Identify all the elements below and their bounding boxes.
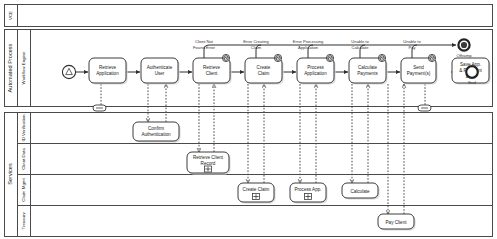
task-label-line2: Claim bbox=[258, 71, 270, 76]
boundary-error-label-line1: Unable to bbox=[403, 39, 421, 44]
pool-label-services: Services bbox=[7, 163, 13, 185]
service-task-label-line1: Process App. bbox=[294, 187, 321, 192]
service-task-label-line1: Confirm bbox=[148, 126, 164, 131]
task-label-line2: Client bbox=[206, 71, 218, 76]
boundary-error-label-line2: Pay bbox=[408, 45, 416, 50]
pool-label-vce: VCE bbox=[8, 11, 13, 20]
task-label-line2: Payment(s) bbox=[407, 71, 431, 76]
task-label-line2: Application bbox=[304, 71, 327, 76]
service-task-label-line2: Record bbox=[201, 161, 216, 166]
task-label-line1: Retrieve bbox=[99, 65, 117, 70]
service-task-process-app[interactable]: Process App. bbox=[290, 183, 328, 204]
event-label-offramp: Offramp bbox=[456, 53, 472, 58]
task-retrieve-application[interactable]: Retrieve Application bbox=[89, 58, 128, 85]
task-label-line1: Create bbox=[257, 65, 271, 70]
boundary-error-label-line1: Unable to bbox=[351, 39, 369, 44]
boundary-error-label-line1: Client Not bbox=[195, 39, 214, 44]
task-label-line1: Process bbox=[307, 65, 324, 70]
service-task-create-claim[interactable]: Create Claim bbox=[238, 183, 276, 204]
service-task-calculate[interactable]: Calculate bbox=[342, 183, 380, 200]
pool-vce: VCE bbox=[5, 5, 493, 27]
lane-label-claim-mgmt: Claim Mgmt bbox=[21, 178, 26, 202]
task-label-line2: Payments bbox=[357, 71, 378, 76]
boundary-error-label-line2: Found Error bbox=[193, 45, 215, 50]
lane-label-id-verification: ID Verification bbox=[21, 114, 26, 142]
collapsed-pool-markers bbox=[93, 105, 431, 111]
task-label-line1: Retrieve bbox=[203, 65, 221, 70]
task-label-line1: Send bbox=[413, 65, 424, 70]
task-authenticate-user[interactable]: Authenticate User bbox=[141, 58, 180, 85]
bpmn-diagram: VCE Automated Process Workflow Engine Se… bbox=[0, 0, 497, 239]
event-start[interactable] bbox=[62, 65, 75, 78]
task-label-line1: Calculate bbox=[358, 65, 378, 70]
boundary-error-label-line2: Calculate bbox=[351, 45, 369, 50]
event-label-end: End bbox=[468, 80, 476, 85]
boundary-error-label-line1: Error Creating bbox=[243, 39, 269, 44]
boundary-error-label-line2: Claim bbox=[251, 45, 262, 50]
service-task-label-line1: Pay Client bbox=[386, 220, 408, 225]
pool-label-automated-process: Automated Process bbox=[7, 43, 13, 92]
service-task-confirm-authentication[interactable]: Confirm Authentication bbox=[133, 122, 181, 143]
diagram-canvas: VCE Automated Process Workflow Engine Se… bbox=[0, 0, 497, 239]
service-task-pay-client[interactable]: Pay Client bbox=[378, 214, 416, 231]
service-task-label-line1: Create Claim bbox=[243, 187, 270, 192]
event-offramp[interactable]: Offramp bbox=[456, 39, 472, 58]
lane-label-client-data: Client Data bbox=[21, 148, 26, 170]
service-task-label-line2: Authentication bbox=[141, 132, 171, 137]
boundary-error-label-line2: Application bbox=[298, 45, 319, 50]
boundary-error-label-line1: Error Processing bbox=[293, 39, 324, 44]
task-label-line2: Application bbox=[96, 71, 119, 76]
lane-label-treasury: Treasury bbox=[21, 212, 26, 230]
service-task-label-line1: Calculate bbox=[350, 189, 370, 194]
task-label-line2: User bbox=[155, 71, 165, 76]
task-label-line1: Authenticate bbox=[147, 65, 173, 70]
service-task-label-line1: Retrieve Client bbox=[193, 155, 224, 160]
service-task-retrieve-client-record[interactable]: Retrieve Client Record bbox=[187, 152, 231, 175]
lane-label-workflow-engine: Workflow Engine bbox=[21, 51, 26, 84]
